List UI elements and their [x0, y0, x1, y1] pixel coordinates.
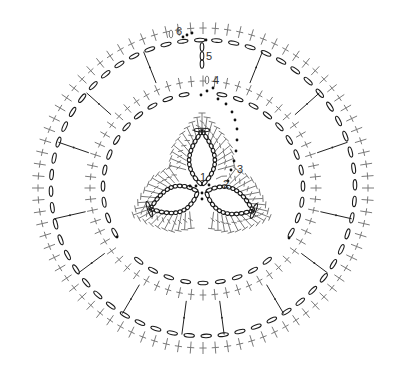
- row-label-3: 3: [237, 163, 243, 175]
- middle-stitch-ring: [85, 76, 322, 301]
- row-label-1: 1: [200, 171, 206, 183]
- row-label-6: 6: [176, 25, 182, 37]
- middle-chain-ring: [101, 92, 305, 285]
- row5-chain-column: [169, 30, 227, 179]
- row-label-4: 4: [213, 74, 219, 86]
- row-label-5: 5: [206, 50, 212, 62]
- slip-stitch-dots: [116, 32, 291, 240]
- row-label-2: 2: [223, 178, 229, 190]
- outer-stitch-ring: [32, 22, 374, 354]
- crochet-diagram: 1 2 3 4 5 6: [0, 0, 402, 379]
